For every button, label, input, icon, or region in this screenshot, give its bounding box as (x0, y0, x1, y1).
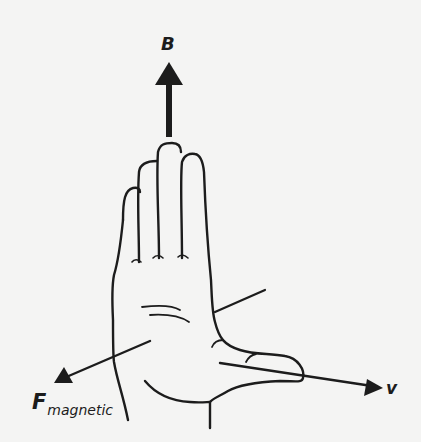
force-label-subscript: magnetic (47, 402, 113, 418)
b-field-label: B (161, 35, 175, 53)
force-arrow (54, 341, 150, 383)
b-field-arrow (155, 62, 183, 137)
force-label: Fmagnetic (32, 392, 113, 413)
force-label-main: F (32, 390, 46, 414)
right-hand-rule-diagram: B v Fmagnetic (0, 0, 421, 442)
velocity-label: v (386, 380, 397, 397)
hand-outline (112, 143, 303, 428)
thumb-direction-line (215, 290, 265, 312)
diagram-drawing (0, 0, 421, 442)
palm-lines (142, 306, 256, 362)
